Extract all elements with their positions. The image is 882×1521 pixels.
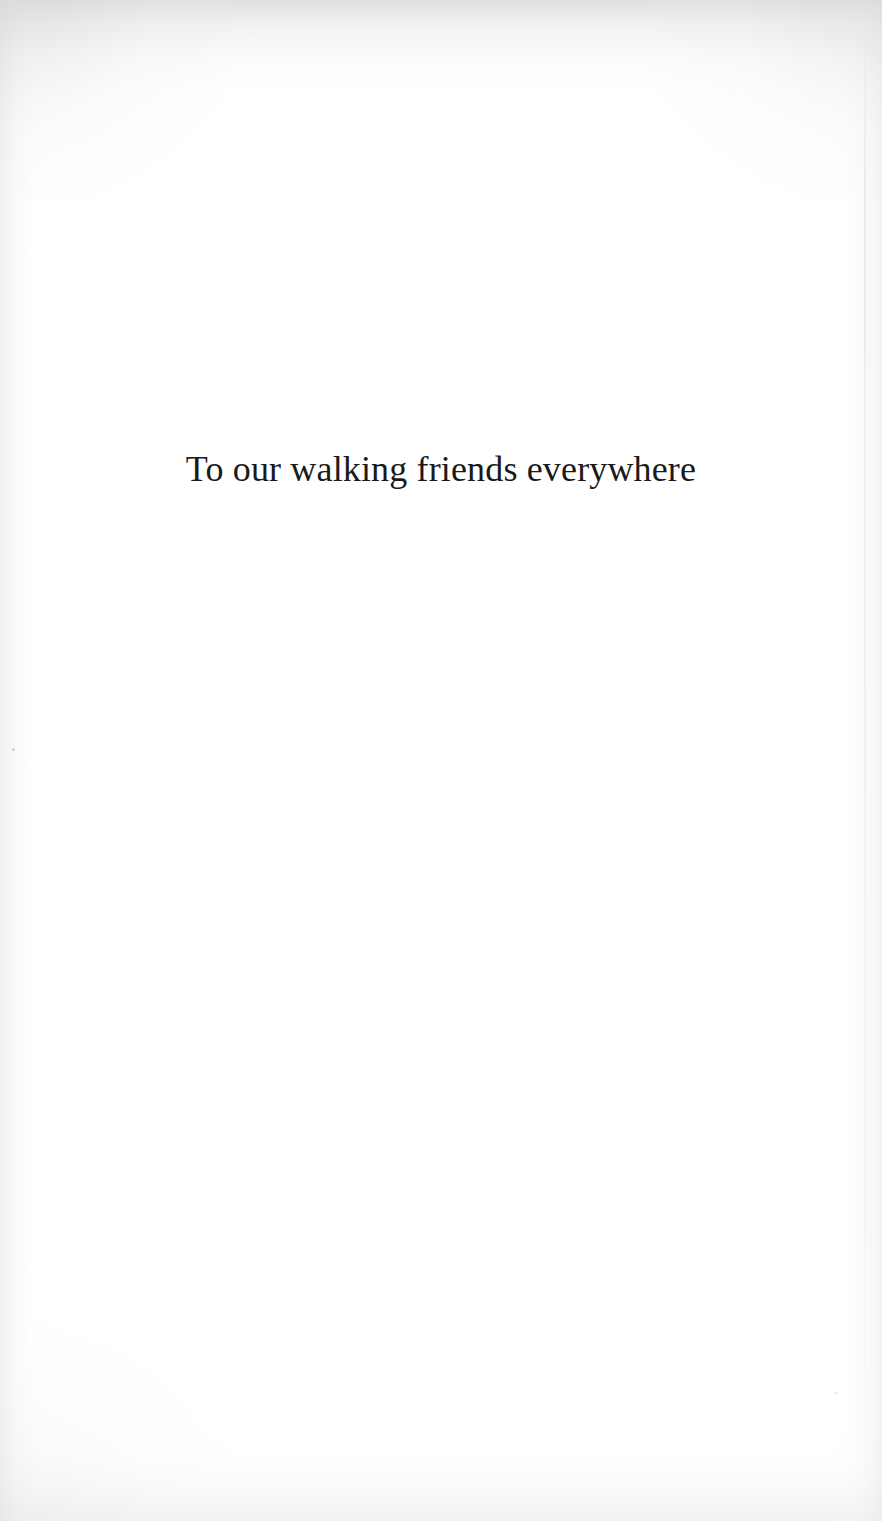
page-edge-shadow-top xyxy=(0,0,882,115)
page-corner-shadow-top-left xyxy=(0,0,230,200)
scan-speck xyxy=(12,748,15,751)
paper-grain-texture xyxy=(0,0,882,1521)
page-corner-shadow-top-right xyxy=(652,0,882,200)
scan-speck xyxy=(835,1392,838,1394)
page-edge-shadow-bottom xyxy=(0,1431,882,1521)
page-crease-line-right xyxy=(864,0,866,1521)
page-corner-shadow-bottom-left xyxy=(0,1321,230,1521)
page-edge-shadow-left xyxy=(0,0,46,1521)
dedication-text: To our walking friends everywhere xyxy=(186,447,696,491)
scanned-book-page: To our walking friends everywhere xyxy=(0,0,882,1521)
page-edge-shadow-right xyxy=(830,0,882,1521)
dedication-block: To our walking friends everywhere xyxy=(0,447,882,491)
